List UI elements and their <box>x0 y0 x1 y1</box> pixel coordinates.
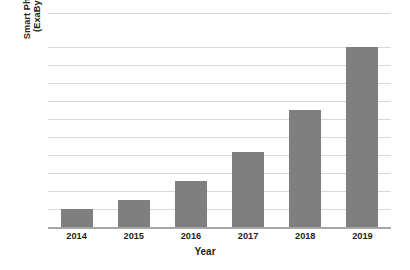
x-axis-tick-label: 2017 <box>220 231 276 241</box>
bar <box>118 200 150 227</box>
bar <box>289 110 321 227</box>
x-axis-tick-labels: 201420152016201720182019 <box>48 231 391 245</box>
bar-chart-figure: Smart Phone Data Traffic (ExaByte per Se… <box>0 0 410 270</box>
x-axis-tick-label: 2018 <box>277 231 333 241</box>
y-axis-title: Smart Phone Data Traffic (ExaByte per Se… <box>14 0 50 76</box>
x-axis-tick-label: 2014 <box>49 231 105 241</box>
bar <box>61 209 93 227</box>
bar <box>232 152 264 227</box>
x-axis-tick-label: 2019 <box>334 231 390 241</box>
bar <box>175 181 207 227</box>
x-axis-line <box>48 227 391 229</box>
x-axis-tick-label: 2015 <box>106 231 162 241</box>
bars-layer <box>48 13 391 227</box>
y-axis-title-line-1: Smart Phone Data Traffic <box>22 0 32 39</box>
y-axis-title-line-2: (ExaByte per Second) <box>32 0 42 32</box>
bar <box>346 47 378 227</box>
x-axis-title: Year <box>0 246 410 257</box>
x-axis-tick-label: 2016 <box>163 231 219 241</box>
